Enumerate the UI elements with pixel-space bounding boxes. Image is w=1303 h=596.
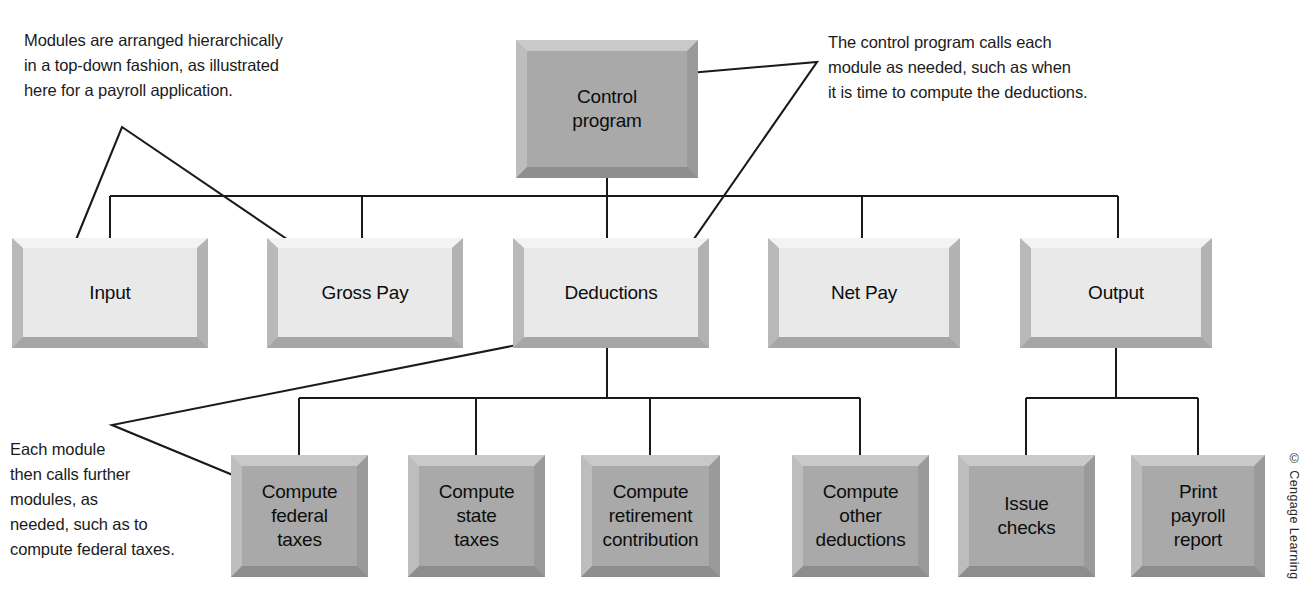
node-control-program[interactable]: Control program bbox=[516, 40, 698, 178]
node-compute-retirement-contribution[interactable]: Compute retirement contribution bbox=[581, 455, 720, 577]
node-label: Print payroll report bbox=[1165, 480, 1232, 552]
node-label: Compute retirement contribution bbox=[597, 480, 705, 552]
annotation-top-right: The control program calls each module as… bbox=[828, 30, 1198, 105]
node-compute-other-deductions[interactable]: Compute other deductions bbox=[792, 455, 929, 577]
node-label: Input bbox=[83, 281, 136, 305]
node-label: Output bbox=[1082, 281, 1150, 305]
node-label: Compute state taxes bbox=[433, 480, 521, 552]
node-label: Compute other deductions bbox=[810, 480, 912, 552]
annotation-top-left: Modules are arranged hierarchically in a… bbox=[24, 28, 344, 103]
node-deductions[interactable]: Deductions bbox=[513, 238, 709, 348]
node-label: Issue checks bbox=[992, 492, 1062, 540]
copyright-credit: © Cengage Learning bbox=[1287, 452, 1301, 580]
annotation-bottom-left: Each module then calls further modules, … bbox=[10, 437, 225, 562]
node-input[interactable]: Input bbox=[12, 238, 208, 348]
figure-canvas: Modules are arranged hierarchically in a… bbox=[0, 0, 1303, 596]
node-output[interactable]: Output bbox=[1020, 238, 1212, 348]
node-label: Deductions bbox=[558, 281, 663, 305]
node-label: Gross Pay bbox=[316, 281, 415, 305]
node-compute-federal-taxes[interactable]: Compute federal taxes bbox=[231, 455, 368, 577]
node-label: Net Pay bbox=[825, 281, 903, 305]
node-net-pay[interactable]: Net Pay bbox=[768, 238, 960, 348]
node-label: Compute federal taxes bbox=[256, 480, 344, 552]
node-compute-state-taxes[interactable]: Compute state taxes bbox=[408, 455, 545, 577]
node-gross-pay[interactable]: Gross Pay bbox=[267, 238, 463, 348]
node-print-payroll-report[interactable]: Print payroll report bbox=[1131, 455, 1265, 577]
node-label: Control program bbox=[566, 85, 647, 133]
node-issue-checks[interactable]: Issue checks bbox=[958, 455, 1095, 577]
